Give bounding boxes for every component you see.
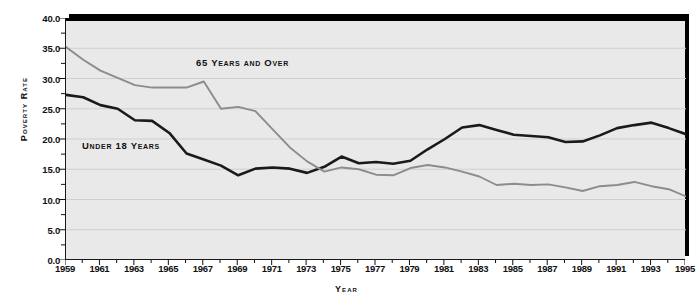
plot-svg: [66, 18, 686, 260]
x-axis-tick-marks: [65, 260, 685, 266]
series-label-over-65: 65 Years and Over: [196, 57, 289, 68]
y-axis-tick: 35.0: [26, 43, 60, 54]
y-axis-title: Poverty Rate: [19, 54, 29, 164]
y-axis-tick: 40.0: [26, 13, 60, 24]
x-axis-title: Year: [0, 284, 693, 294]
y-axis-tick: 30.0: [26, 73, 60, 84]
y-axis-tick: 15.0: [26, 164, 60, 175]
series-line-under-18: [66, 95, 686, 175]
y-axis-tick: 25.0: [26, 103, 60, 114]
series-line-over-65: [66, 47, 686, 196]
y-axis-tick: 5.0: [26, 224, 60, 235]
y-axis-tick: 10.0: [26, 194, 60, 205]
plot-area: [65, 18, 685, 260]
y-axis-tick-marks: [59, 18, 66, 260]
y-axis-tick: 20.0: [26, 134, 60, 145]
series-label-under-18: Under 18 Years: [82, 140, 160, 151]
